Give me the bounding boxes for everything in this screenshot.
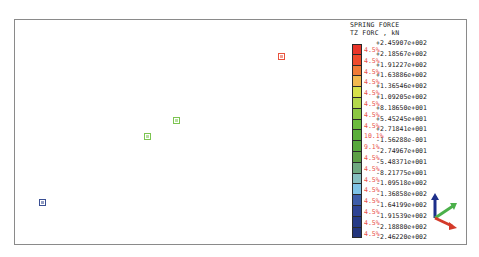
spring-element-marker[interactable] [144, 133, 151, 140]
legend-tick-label: +2.18567e+002 [376, 51, 427, 58]
band-percentage: 4.5% [364, 197, 380, 205]
legend-tick-label: -2.18880e+002 [376, 224, 427, 231]
band-percentage: 4.5% [364, 165, 380, 173]
band-percentage: 4.5% [364, 219, 380, 227]
legend-tick-label: +1.36546e+002 [376, 83, 427, 90]
legend-subtitle: TZ FORC , kN [350, 30, 465, 38]
spring-element-marker[interactable] [173, 117, 180, 124]
legend-tick-label: -1.36858e+002 [376, 191, 427, 198]
legend-tick-label: -5.48371e+001 [376, 159, 427, 166]
legend-tick-label: -2.46220e+002 [376, 234, 427, 241]
legend-tick-label: -1.91539e+002 [376, 213, 427, 220]
band-percentage: 4.5% [364, 154, 380, 162]
axis-triad-icon [425, 192, 465, 232]
legend-tick-label: +8.18650e+001 [376, 105, 427, 112]
band-percentage: 4.5% [364, 100, 380, 108]
band-percentage: 4.5% [364, 230, 380, 238]
contour-legend: SPRING FORCE TZ FORC , kN +2.45907e+002+… [350, 22, 465, 37]
band-percentage: 4.5% [364, 78, 380, 86]
band-percentage: 9.1% [364, 143, 380, 151]
band-percentage: 4.5% [364, 111, 380, 119]
legend-tick-label: +5.45245e+001 [376, 116, 427, 123]
spring-element-marker[interactable] [278, 53, 285, 60]
band-percentage: 4.5% [364, 176, 380, 184]
legend-tick-label: +1.09205e+002 [376, 94, 427, 101]
band-percentage: 4.5% [364, 68, 380, 76]
legend-tick-label: -1.09518e+002 [376, 180, 427, 187]
legend-tick-label: -8.21775e+001 [376, 170, 427, 177]
legend-tick-label: -1.64199e+002 [376, 202, 427, 209]
band-percentage: 4.5% [364, 89, 380, 97]
band-percentage: 4.5% [364, 208, 380, 216]
legend-tick-label: +1.91227e+002 [376, 62, 427, 69]
legend-tick-label: -2.74967e+001 [376, 148, 427, 155]
band-percentage: 10.1% [364, 132, 384, 140]
legend-tick-label: +2.45907e+002 [376, 40, 427, 47]
legend-tick-label: +1.63886e+002 [376, 72, 427, 79]
band-percentage: 4.5% [364, 186, 380, 194]
band-percentage: 4.5% [364, 122, 380, 130]
color-bar-border [352, 44, 362, 238]
band-percentage: 4.5% [364, 46, 380, 54]
band-percentage: 4.5% [364, 57, 380, 65]
spring-element-marker[interactable] [39, 199, 46, 206]
